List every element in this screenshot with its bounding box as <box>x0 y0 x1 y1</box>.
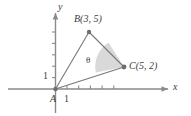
point-label-b: B(3, 5) <box>74 14 102 24</box>
point-label-a: A <box>50 94 56 104</box>
point-label-c: C(5, 2) <box>129 61 157 71</box>
point-marker-c <box>122 65 127 70</box>
y-axis-arrowhead <box>53 13 59 20</box>
x-axis-arrowhead <box>162 86 169 92</box>
y-axis-unit-label: 1 <box>43 71 48 81</box>
segment-ab <box>56 32 90 89</box>
geometry-figure: B(3, 5) C(5, 2) A x y 1 1 θ <box>0 0 191 116</box>
point-marker-b <box>87 30 91 34</box>
angle-label-theta: θ <box>86 56 90 65</box>
x-axis-label: x <box>173 82 177 92</box>
y-axis-label: y <box>58 2 62 12</box>
point-marker-a <box>53 87 57 91</box>
x-axis-unit-label: 1 <box>64 94 69 104</box>
